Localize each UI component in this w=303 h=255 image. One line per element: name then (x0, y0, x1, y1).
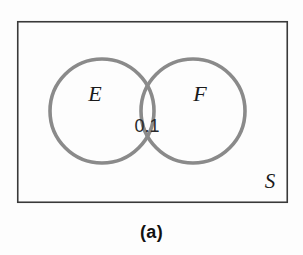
set-e-circle (50, 59, 154, 163)
venn-figure: E F 0.1 S (a) (0, 0, 303, 255)
figure-caption: (a) (0, 222, 303, 243)
venn-diagram-canvas: E F 0.1 S (0, 0, 303, 255)
set-f-label: F (192, 81, 207, 106)
set-e-label: E (87, 81, 102, 106)
intersection-value-label: 0.1 (134, 116, 159, 136)
sample-space-label: S (265, 169, 276, 193)
set-f-circle (141, 59, 245, 163)
